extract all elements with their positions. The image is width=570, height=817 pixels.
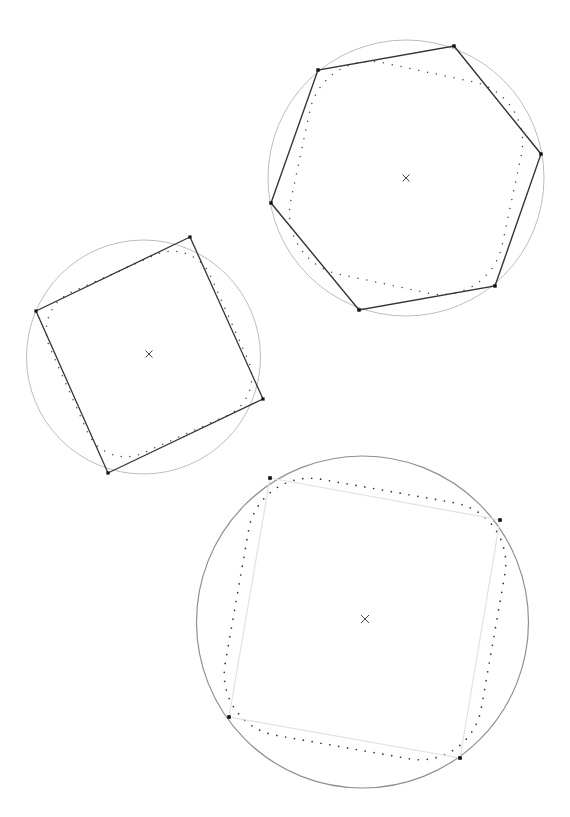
- curve-dot: [240, 405, 242, 407]
- curve-dot: [486, 275, 488, 277]
- curve-dot: [311, 741, 313, 743]
- curve-dot: [315, 95, 317, 97]
- curve-dot: [498, 609, 500, 611]
- curve-dot: [240, 574, 242, 576]
- polygon-vertex-marker[interactable]: [106, 471, 109, 474]
- curve-dot: [290, 200, 292, 202]
- curve-dot: [251, 381, 253, 383]
- curve-dot: [452, 502, 454, 504]
- curve-dot: [499, 600, 501, 602]
- curve-dot: [355, 485, 357, 487]
- curve-dot: [293, 235, 295, 237]
- curve-dot: [170, 440, 172, 442]
- polygon-vertex-marker[interactable]: [539, 152, 542, 155]
- curve-dot: [302, 739, 304, 741]
- curve-dot: [514, 111, 516, 113]
- curve-dot: [225, 689, 227, 691]
- curve-dot: [293, 479, 295, 481]
- curve-dot: [308, 258, 310, 260]
- curve-dot: [235, 601, 237, 603]
- polygon-vertex-marker[interactable]: [498, 518, 502, 522]
- curve-dot: [417, 759, 419, 761]
- curve-dot: [206, 268, 208, 270]
- curve-dot: [76, 407, 78, 409]
- curve-dot: [435, 757, 437, 759]
- curve-dot: [83, 423, 85, 425]
- curve-dot: [224, 308, 226, 310]
- curve-dot: [238, 713, 240, 715]
- polygon-vertex-marker[interactable]: [261, 397, 264, 400]
- curve-dot: [56, 302, 58, 304]
- polygon-vertex-marker[interactable]: [188, 235, 191, 238]
- curve-dot: [69, 391, 71, 393]
- curve-dot: [505, 565, 507, 567]
- curve-dot: [299, 156, 301, 158]
- curve-dot: [46, 325, 48, 327]
- polygon-vertex-marker[interactable]: [452, 44, 455, 47]
- curve-dot: [263, 498, 265, 500]
- curve-dot: [249, 364, 251, 366]
- curve-dot: [391, 755, 393, 757]
- curve-dot: [513, 190, 515, 192]
- curve-dot: [520, 155, 522, 157]
- polygon-vertex-marker[interactable]: [227, 715, 231, 719]
- polygon-vertex-marker[interactable]: [458, 756, 462, 760]
- curve-dot: [269, 492, 271, 494]
- curve-dot: [58, 367, 60, 369]
- polygon-vertex-marker[interactable]: [493, 284, 496, 287]
- curve-dot: [426, 759, 428, 761]
- figure-canvas: [0, 0, 570, 817]
- curve-dot: [237, 592, 239, 594]
- curve-dot: [479, 715, 481, 717]
- curve-dot: [301, 147, 303, 149]
- curve-dot: [469, 507, 471, 509]
- polygon-vertex-marker[interactable]: [357, 308, 360, 311]
- curve-dot: [390, 491, 392, 493]
- curve-dot: [242, 348, 244, 350]
- curve-dot: [408, 494, 410, 496]
- curve-dot: [309, 112, 311, 114]
- curve-dot: [373, 752, 375, 754]
- curve-dot: [382, 489, 384, 491]
- curve-dot: [418, 70, 420, 72]
- polygon-vertex-marker[interactable]: [269, 201, 272, 204]
- polygon-vertex-marker[interactable]: [34, 309, 37, 312]
- curve-dot: [329, 480, 331, 482]
- curve-dot: [104, 450, 106, 452]
- curve-dot: [519, 164, 521, 166]
- curve-dot: [475, 723, 477, 725]
- curve-dot: [374, 61, 376, 63]
- curve-dot: [217, 291, 219, 293]
- curve-dot: [97, 445, 99, 447]
- polygon-vertex-marker[interactable]: [316, 68, 319, 71]
- curve-dot: [495, 627, 497, 629]
- curve-dot: [393, 285, 395, 287]
- curve-dot: [496, 91, 498, 93]
- curve-dot: [285, 736, 287, 738]
- curve-dot: [186, 433, 188, 435]
- curve-dot: [337, 481, 339, 483]
- curve-dot: [502, 243, 504, 245]
- curve-dot: [305, 129, 307, 131]
- polygon-vertex-marker[interactable]: [268, 476, 272, 480]
- curve-dot: [277, 487, 279, 489]
- curve-dot: [511, 199, 512, 201]
- curve-dot: [490, 653, 492, 655]
- curve-dot: [228, 316, 230, 318]
- curve-dot: [259, 729, 261, 731]
- curve-dot: [162, 443, 164, 445]
- curve-dot: [491, 268, 493, 270]
- curve-dot: [65, 383, 67, 385]
- curve-dot: [444, 75, 446, 77]
- curve-dot: [496, 260, 498, 262]
- curve-dot: [329, 744, 331, 746]
- curve-dot: [479, 281, 481, 283]
- curve-dot: [357, 277, 359, 279]
- curve-dot: [496, 531, 498, 533]
- curve-dot: [435, 499, 437, 501]
- curve-dot: [471, 731, 473, 733]
- curve-dot: [325, 80, 327, 82]
- figure-root: [0, 0, 570, 817]
- curve-dot: [499, 252, 501, 254]
- curve-dot: [417, 495, 419, 497]
